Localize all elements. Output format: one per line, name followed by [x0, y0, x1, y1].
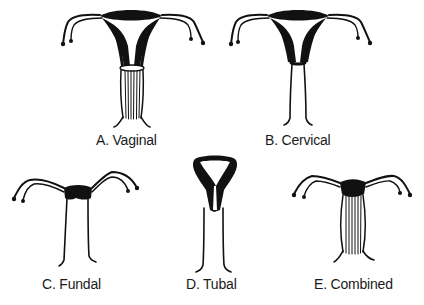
panel-a-drawing: [61, 10, 205, 127]
panel-d-drawing: [193, 156, 237, 273]
panel-d-label: D. Tubal: [186, 276, 237, 292]
panel-b-drawing: [229, 10, 372, 125]
diagram-figure: A. Vaginal B. Cervical C. Fundal D. Tuba…: [0, 0, 424, 305]
panel-c-drawing: [12, 172, 139, 266]
panel-e-drawing: [292, 176, 412, 262]
panel-c-label: C. Fundal: [42, 276, 101, 292]
diagram-drawings: [0, 0, 424, 305]
panel-e-label: E. Combined: [314, 276, 393, 292]
panel-b-label: B. Cervical: [265, 132, 330, 148]
panel-a-label: A. Vaginal: [96, 132, 157, 148]
